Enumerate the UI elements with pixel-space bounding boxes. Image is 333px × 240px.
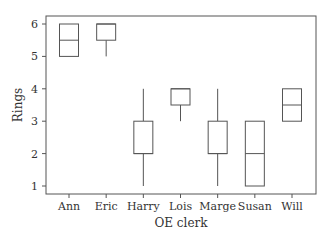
iqr-box: [134, 121, 153, 153]
x-axis-ticks: AnnEricHarryLoisMargeSusanWill: [57, 194, 303, 213]
box-lois: [171, 89, 190, 121]
x-tick-label: Will: [281, 200, 303, 213]
box-plot: 123456 AnnEricHarryLoisMargeSusanWill Ri…: [0, 0, 333, 240]
y-tick-label: 1: [31, 180, 38, 193]
x-tick-label: Susan: [238, 200, 272, 213]
box-marge: [208, 89, 227, 186]
x-tick-label: Lois: [169, 200, 192, 213]
box-eric: [97, 24, 116, 56]
x-tick-label: Ann: [57, 200, 80, 213]
box-will: [283, 89, 302, 121]
box-susan: [245, 121, 264, 186]
y-tick-label: 5: [31, 50, 38, 63]
y-tick-label: 4: [31, 83, 38, 96]
y-axis-ticks: 123456: [31, 18, 46, 193]
x-tick-label: Harry: [127, 200, 161, 213]
iqr-box: [97, 24, 116, 40]
iqr-box: [171, 89, 190, 105]
x-tick-label: Marge: [199, 200, 236, 213]
box-harry: [134, 89, 153, 186]
boxes: [60, 24, 302, 186]
y-tick-label: 3: [31, 115, 38, 128]
x-tick-label: Eric: [95, 200, 118, 213]
iqr-box: [208, 121, 227, 153]
y-axis-label: Rings: [11, 88, 25, 122]
y-tick-label: 6: [31, 18, 38, 31]
x-axis-label: OE clerk: [154, 216, 208, 230]
box-ann: [60, 24, 79, 56]
y-tick-label: 2: [31, 148, 38, 161]
